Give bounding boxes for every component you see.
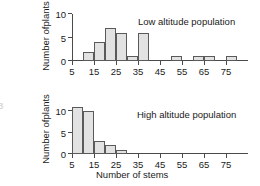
x-tick-label: 65: [199, 159, 210, 170]
series-title-high-altitude: High altitude population: [137, 109, 236, 120]
x-tick: [94, 61, 95, 65]
x-tick: [204, 61, 205, 65]
histogram-bar: [94, 42, 105, 61]
histogram-bar: [171, 56, 182, 61]
x-tick: [182, 154, 183, 158]
histogram-bar: [193, 56, 204, 61]
x-tick-label: 55: [177, 159, 188, 170]
y-axis-title-line2: plants: [41, 94, 52, 119]
x-tick: [116, 154, 117, 158]
x-tick-label: 5: [69, 66, 74, 77]
x-tick-label: 45: [155, 66, 166, 77]
series-title-low-altitude: Low altitude population: [138, 16, 235, 27]
x-tick: [94, 154, 95, 158]
x-tick: [204, 154, 205, 158]
x-tick-label: 55: [177, 66, 188, 77]
x-tick: [116, 61, 117, 65]
x-tick: [138, 154, 139, 158]
x-tick-label: 65: [199, 66, 210, 77]
panel-letter: B: [0, 101, 4, 111]
histogram-bar: [226, 56, 237, 61]
histogram-bar: [83, 111, 94, 154]
histogram-bar: [116, 150, 127, 154]
histogram-bar: [127, 56, 138, 61]
x-tick: [72, 154, 73, 158]
y-tick-label: 0: [61, 149, 66, 160]
chart-panel-high-altitude: B Number of plants 0510515253545556575 H…: [0, 93, 260, 186]
x-tick-label: 35: [133, 66, 144, 77]
y-axis-title-line1: Number of: [41, 120, 52, 164]
x-tick: [226, 154, 227, 158]
x-tick: [160, 154, 161, 158]
x-tick: [182, 61, 183, 65]
y-axis-line-top: [72, 14, 73, 61]
y-tick-label: 5: [61, 127, 66, 138]
y-tick: [68, 37, 72, 38]
x-tick-label: 75: [221, 66, 232, 77]
histogram-bar: [204, 56, 215, 61]
histogram-bar: [138, 33, 149, 61]
histogram-bar: [72, 107, 83, 154]
histogram-bar: [105, 145, 116, 154]
y-tick: [68, 13, 72, 14]
histogram-bar: [116, 33, 127, 61]
y-tick-label: 10: [55, 9, 66, 20]
x-tick-label: 5: [69, 159, 74, 170]
histogram-bar: [83, 52, 94, 61]
x-axis-title: Number of stems: [96, 169, 168, 180]
x-tick: [226, 61, 227, 65]
x-tick: [72, 61, 73, 65]
x-tick-label: 25: [111, 66, 122, 77]
y-tick-label: 10: [55, 106, 66, 117]
y-axis-title-line1: Number of: [41, 27, 52, 71]
x-tick: [138, 61, 139, 65]
x-tick: [160, 61, 161, 65]
y-tick-label: 0: [61, 56, 66, 67]
chart-panel-low-altitude: Number of plants 0510515253545556575 Low…: [0, 0, 260, 93]
x-tick-label: 75: [221, 159, 232, 170]
y-tick-label: 5: [61, 32, 66, 43]
x-tick-label: 15: [89, 66, 100, 77]
histogram-bar: [94, 141, 105, 154]
y-axis-title-line2: plants: [41, 1, 52, 26]
histogram-bar: [105, 28, 116, 61]
